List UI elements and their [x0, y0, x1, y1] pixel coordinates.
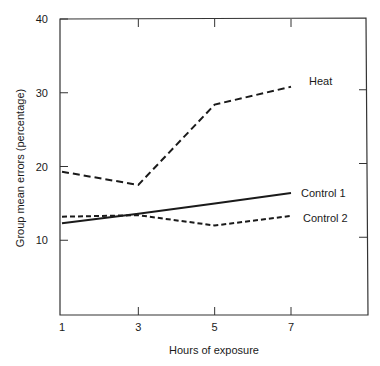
x-tick-label: 5 — [212, 321, 218, 333]
series-label-control-1: Control 1 — [301, 187, 346, 199]
y-tick-label: 20 — [36, 161, 48, 173]
y-tick-label: 30 — [36, 87, 48, 99]
plot-frame — [60, 18, 368, 315]
x-axis-ticks: 1357 — [59, 19, 294, 333]
x-tick-label: 1 — [59, 321, 65, 333]
x-tick-label: 3 — [135, 321, 141, 333]
series-label-heat: Heat — [309, 75, 332, 87]
y-tick-label: 40 — [36, 13, 48, 25]
series-control-1 — [62, 193, 291, 223]
series-lines: HeatControl 1Control 2 — [62, 75, 348, 226]
series-control-2 — [62, 215, 291, 225]
line-chart: 10203040 1357 HeatControl 1Control 2 Hou… — [0, 0, 380, 366]
y-tick-label: 10 — [36, 234, 48, 246]
y-axis-label: Group mean errors (percentage) — [14, 89, 26, 247]
x-axis-label: Hours of exposure — [169, 344, 259, 356]
series-heat — [62, 87, 291, 185]
series-label-control-2: Control 2 — [303, 212, 348, 224]
x-tick-label: 7 — [288, 321, 294, 333]
plot-border — [60, 18, 368, 315]
